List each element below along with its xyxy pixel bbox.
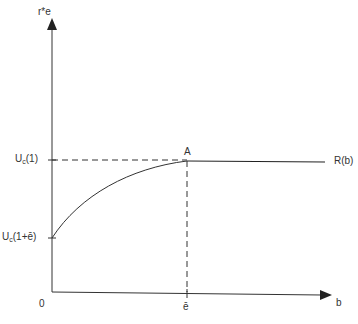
- r-flat-line: [187, 161, 325, 162]
- y-tick-label-uc1e: Uc(1+ē): [2, 231, 36, 243]
- x-axis-arrow-icon: [320, 290, 332, 300]
- r-curve: [52, 161, 187, 238]
- y-axis-label: r*e: [38, 6, 51, 17]
- origin-label: 0: [39, 298, 45, 309]
- y-tick-label-uc1: Uc(1): [15, 153, 38, 165]
- x-tick-label: ē: [183, 301, 189, 312]
- diagram-canvas: [0, 0, 358, 324]
- x-axis-label: b: [336, 297, 342, 308]
- point-a-label: A: [184, 146, 191, 157]
- curve-label: R(b): [334, 155, 353, 166]
- y-axis-arrow-icon: [47, 18, 57, 30]
